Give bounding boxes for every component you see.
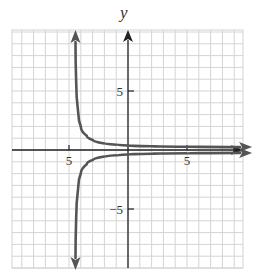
x-tick-label: 5	[66, 153, 73, 168]
function-graph: 555−5 y	[0, 0, 253, 280]
upper-branch-curve	[76, 42, 241, 147]
y-axis-label: y	[118, 3, 128, 22]
x-tick-label: 5	[184, 153, 191, 168]
y-tick-label: −5	[109, 202, 123, 217]
y-tick-label: 5	[117, 84, 124, 99]
lower-branch-curve	[76, 153, 241, 258]
